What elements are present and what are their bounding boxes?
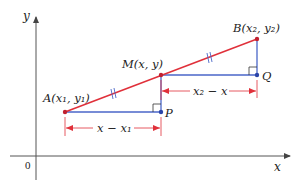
point-q bbox=[255, 73, 259, 77]
label-p: P bbox=[164, 106, 173, 120]
dimension-upper-label: x₂ − x bbox=[193, 84, 228, 98]
label-a: A(x₁, y₁) bbox=[42, 91, 90, 105]
point-p bbox=[159, 110, 163, 114]
point-b bbox=[255, 37, 259, 41]
point-a bbox=[63, 110, 67, 114]
x-axis-label-right: x bbox=[274, 160, 281, 174]
label-b: B(x₂, y₂) bbox=[232, 21, 280, 35]
midpoint-diagram: y x x 0 A(x₁, y₁) M(x, y) B(x₂, y₂) P Q … bbox=[0, 0, 293, 184]
origin-label: 0 bbox=[25, 159, 31, 171]
dimension-lower-label: x − x₁ bbox=[97, 121, 132, 135]
y-axis-label: y bbox=[22, 9, 30, 23]
label-m: M(x, y) bbox=[121, 57, 163, 71]
label-q: Q bbox=[262, 69, 272, 83]
point-m bbox=[159, 73, 163, 77]
